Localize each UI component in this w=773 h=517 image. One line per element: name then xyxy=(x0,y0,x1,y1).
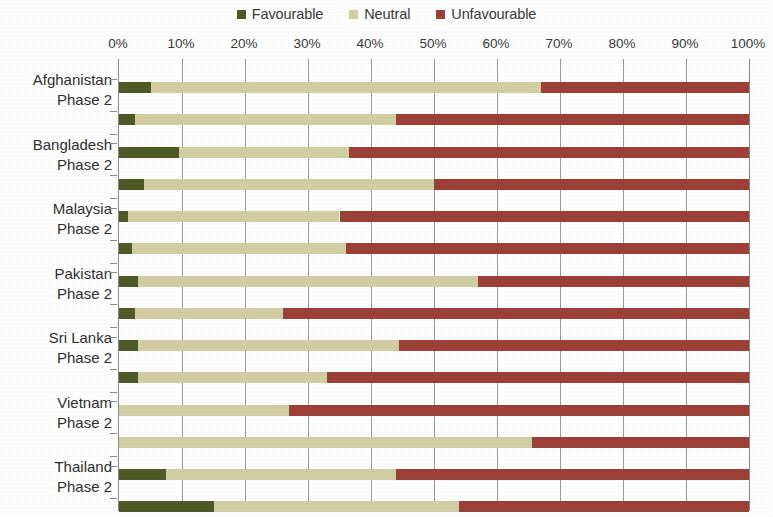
square-swatch-icon xyxy=(237,10,246,19)
x-tick-label: 90% xyxy=(671,36,698,51)
bar-row[interactable] xyxy=(119,437,749,448)
bar-segment-favourable[interactable] xyxy=(119,372,138,383)
category-label-phase: Phase 2 xyxy=(0,155,112,175)
category-label-group: VietnamPhase 2 xyxy=(0,393,112,433)
plot-area xyxy=(118,59,749,511)
category-tick-mark xyxy=(110,111,117,112)
legend-label: Favourable xyxy=(252,6,324,22)
bar-segment-neutral[interactable] xyxy=(128,211,339,222)
category-label-group: PakistanPhase 2 xyxy=(0,264,112,304)
bar-row[interactable] xyxy=(119,147,749,158)
bar-row[interactable] xyxy=(119,179,749,190)
bar-segment-neutral[interactable] xyxy=(138,340,399,351)
x-axis-tick-labels: 0%10%20%30%40%50%60%70%80%90%100% xyxy=(0,36,773,54)
x-tick-label: 70% xyxy=(545,36,572,51)
gridline xyxy=(749,59,750,511)
bar-segment-favourable[interactable] xyxy=(119,501,214,512)
bar-segment-favourable[interactable] xyxy=(119,469,166,480)
bar-segment-unfavourable[interactable] xyxy=(541,82,749,93)
category-tick-mark xyxy=(110,337,117,338)
bar-segment-unfavourable[interactable] xyxy=(532,437,749,448)
bar-row[interactable] xyxy=(119,405,749,416)
x-tick-label: 30% xyxy=(293,36,320,51)
legend-item[interactable]: Neutral xyxy=(349,6,410,22)
stacked-bar-chart: FavourableNeutralUnfavourable 0%10%20%30… xyxy=(0,0,773,517)
bar-segment-unfavourable[interactable] xyxy=(478,276,749,287)
bar-row[interactable] xyxy=(119,501,749,512)
square-swatch-icon xyxy=(436,10,445,19)
bar-row[interactable] xyxy=(119,243,749,254)
bar-segment-unfavourable[interactable] xyxy=(289,405,749,416)
bar-segment-unfavourable[interactable] xyxy=(396,114,749,125)
bar-segment-favourable[interactable] xyxy=(119,114,135,125)
bar-row[interactable] xyxy=(119,82,749,93)
legend-item[interactable]: Unfavourable xyxy=(436,6,536,22)
legend-item[interactable]: Favourable xyxy=(237,6,324,22)
bar-segment-favourable[interactable] xyxy=(119,308,135,319)
bar-segment-neutral[interactable] xyxy=(151,82,542,93)
category-tick-mark xyxy=(110,240,117,241)
bar-segment-favourable[interactable] xyxy=(119,147,179,158)
bar-segment-neutral[interactable] xyxy=(135,114,396,125)
bar-segment-unfavourable[interactable] xyxy=(346,243,749,254)
category-tick-mark xyxy=(110,79,117,80)
bar-segment-unfavourable[interactable] xyxy=(340,211,750,222)
bar-row[interactable] xyxy=(119,114,749,125)
bar-segment-neutral[interactable] xyxy=(166,469,396,480)
category-tick-mark xyxy=(110,272,117,273)
category-label-country: Vietnam xyxy=(0,393,112,413)
bar-segment-favourable[interactable] xyxy=(119,179,144,190)
category-tick-mark xyxy=(110,134,117,135)
category-tick-mark xyxy=(110,304,117,305)
bar-segment-favourable[interactable] xyxy=(119,276,138,287)
bar-segment-neutral[interactable] xyxy=(119,405,289,416)
bar-segment-neutral[interactable] xyxy=(138,276,478,287)
category-tick-mark xyxy=(110,498,117,499)
category-tick-mark xyxy=(110,466,117,467)
category-label-country: Bangladesh xyxy=(0,135,112,155)
bar-segment-neutral[interactable] xyxy=(179,147,349,158)
x-tick-label: 0% xyxy=(108,36,128,51)
category-label-phase: Phase 2 xyxy=(0,413,112,433)
category-label-group: BangladeshPhase 2 xyxy=(0,135,112,175)
bar-segment-unfavourable[interactable] xyxy=(283,308,749,319)
bar-segment-unfavourable[interactable] xyxy=(434,179,749,190)
bar-segment-unfavourable[interactable] xyxy=(399,340,749,351)
bar-row[interactable] xyxy=(119,276,749,287)
x-tick-label: 50% xyxy=(419,36,446,51)
bar-segment-neutral[interactable] xyxy=(119,437,532,448)
bar-row[interactable] xyxy=(119,469,749,480)
bar-segment-neutral[interactable] xyxy=(138,372,327,383)
category-label-phase: Phase 2 xyxy=(0,477,112,497)
category-tick-mark xyxy=(110,433,117,434)
category-label-group: ThailandPhase 2 xyxy=(0,457,112,497)
bar-row[interactable] xyxy=(119,372,749,383)
x-tick-label: 100% xyxy=(731,36,766,51)
bar-segment-neutral[interactable] xyxy=(144,179,434,190)
bar-segment-favourable[interactable] xyxy=(119,340,138,351)
bar-segment-neutral[interactable] xyxy=(135,308,283,319)
category-label-group: MalaysiaPhase 2 xyxy=(0,199,112,239)
bar-segment-favourable[interactable] xyxy=(119,243,132,254)
category-axis-labels: AfghanistanPhase 2BangladeshPhase 2Malay… xyxy=(0,59,112,511)
bar-segment-unfavourable[interactable] xyxy=(327,372,749,383)
bar-segment-favourable[interactable] xyxy=(119,82,151,93)
legend-label: Unfavourable xyxy=(451,6,536,22)
bar-row[interactable] xyxy=(119,308,749,319)
bar-segment-neutral[interactable] xyxy=(214,501,460,512)
category-label-phase: Phase 2 xyxy=(0,284,112,304)
category-tick-mark xyxy=(110,198,117,199)
category-label-country: Sri Lanka xyxy=(0,328,112,348)
bar-segment-neutral[interactable] xyxy=(132,243,346,254)
category-tick-mark xyxy=(110,369,117,370)
bar-row[interactable] xyxy=(119,211,749,222)
bar-segment-favourable[interactable] xyxy=(119,211,128,222)
category-label-country: Pakistan xyxy=(0,264,112,284)
bar-segment-unfavourable[interactable] xyxy=(349,147,749,158)
bar-row[interactable] xyxy=(119,340,749,351)
category-label-group: Sri LankaPhase 2 xyxy=(0,328,112,368)
category-tick-mark xyxy=(110,208,117,209)
bar-segment-unfavourable[interactable] xyxy=(459,501,749,512)
bar-segment-unfavourable[interactable] xyxy=(396,469,749,480)
category-tick-mark xyxy=(110,175,117,176)
